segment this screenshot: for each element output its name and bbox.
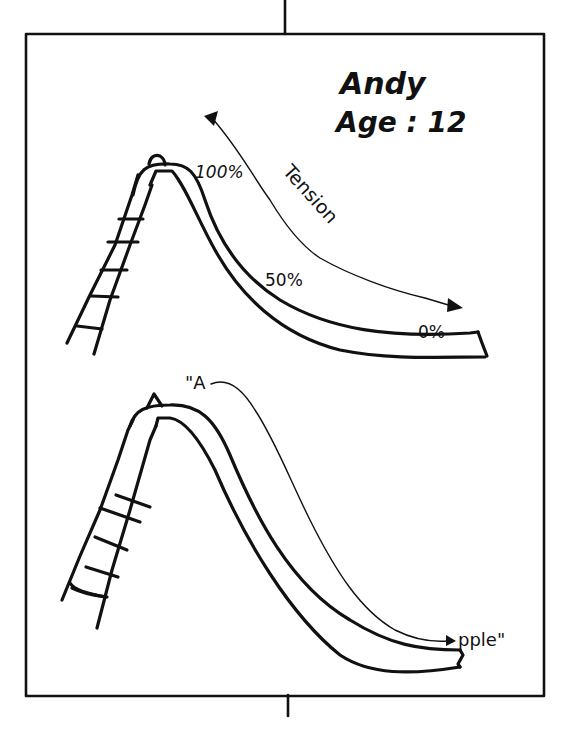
ladder-icon	[62, 420, 133, 600]
tension-label: Tension	[278, 159, 342, 227]
ladder-icon	[67, 175, 138, 343]
label-pple-end: pple"	[458, 629, 505, 650]
label-a-start: "A	[185, 372, 206, 393]
age-label: Age : 12	[334, 106, 466, 139]
name-label: Andy	[338, 66, 427, 101]
label-0-percent: 0%	[418, 322, 445, 342]
label-50-percent: 50%	[265, 270, 303, 290]
bottom-slide-icon	[62, 394, 463, 672]
label-100-percent: 100%	[195, 162, 244, 182]
drawing-canvas: Andy Age : 12 Tension 100% 50% 0%	[0, 0, 561, 736]
apple-arrow-icon	[211, 382, 456, 646]
